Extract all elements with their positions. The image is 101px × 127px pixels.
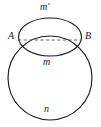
label-point-a: A bbox=[8, 31, 14, 41]
label-arc-bottom-n: n bbox=[44, 104, 49, 114]
figure-canvas bbox=[0, 0, 101, 127]
label-point-b: B bbox=[85, 31, 91, 41]
label-arc-lower-m: m bbox=[43, 57, 50, 67]
geometry-figure: m' A B m n bbox=[0, 0, 101, 127]
label-arc-upper-m-prime: m' bbox=[40, 2, 49, 12]
small-ellipse bbox=[19, 18, 82, 56]
large-circle bbox=[8, 36, 92, 120]
